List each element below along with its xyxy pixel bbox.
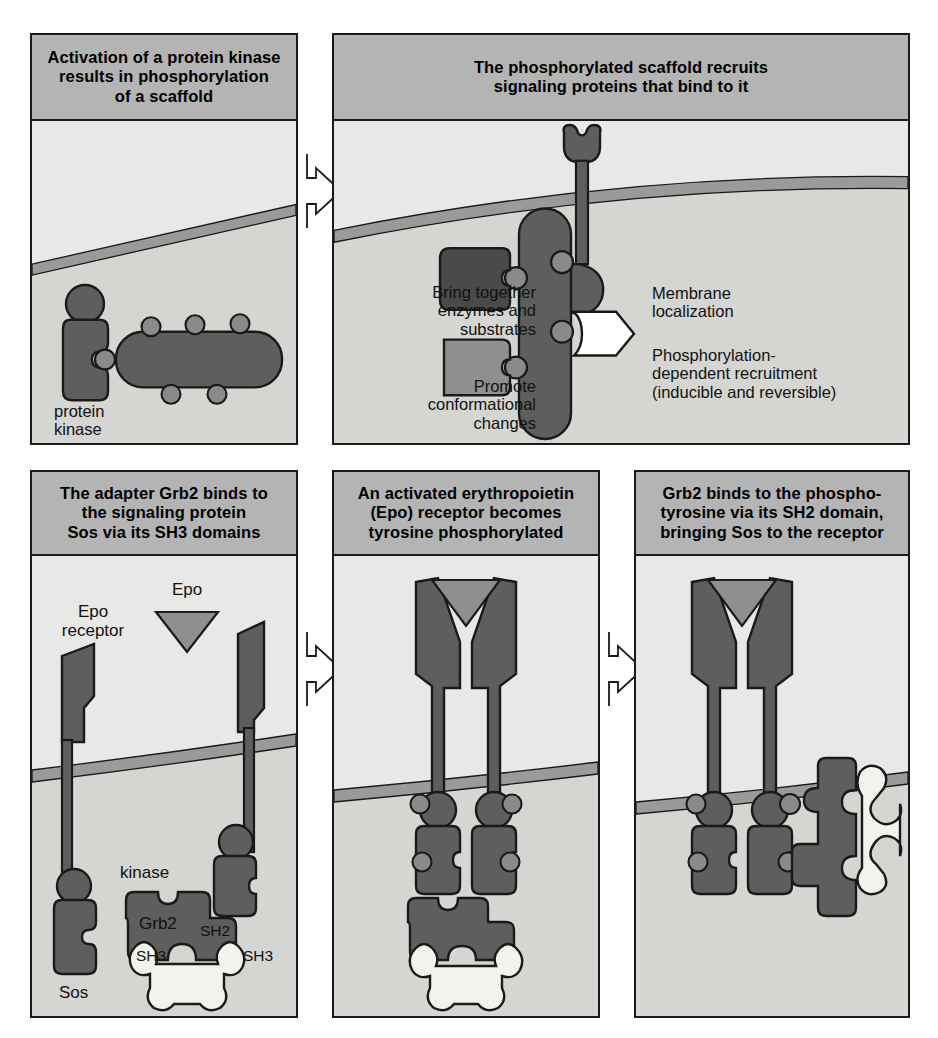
- panel-1-molecules: [32, 121, 296, 443]
- panel-1-title-text: Activation of a protein kinase results i…: [47, 48, 280, 106]
- epo-ligand-triangle: [156, 612, 218, 652]
- sh3-left-label: SH3: [136, 947, 166, 964]
- kinase-label: kinase: [120, 863, 169, 882]
- phosphotyrosine: [501, 853, 520, 872]
- panel-2-body: Bring together enzymes and substrates Pr…: [334, 121, 908, 443]
- panel-3-title-text: The adapter Grb2 binds to the signaling …: [60, 484, 268, 542]
- panel-phosphorylated-scaffold-recruits: The phosphorylated scaffold recruits sig…: [332, 33, 910, 445]
- phosphotyrosine: [413, 853, 432, 872]
- panel-1-body: protein kinase: [32, 121, 296, 443]
- phosphotyrosine: [687, 795, 706, 814]
- epo-label: Epo: [140, 580, 234, 599]
- kinase-domain-right: [472, 792, 522, 894]
- epo-receptor-label: Epo receptor: [38, 602, 148, 640]
- phosphotyrosine: [503, 795, 522, 814]
- bring-together-label: Bring together enzymes and substrates: [346, 283, 536, 338]
- panel-4-molecules: [334, 556, 598, 1016]
- kinase-domain-left: [687, 792, 737, 894]
- panel-grb2-binds-phosphotyrosine: Grb2 binds to the phospho- tyrosine via …: [634, 470, 910, 1018]
- sos-label: Sos: [59, 983, 88, 1002]
- sh2-label: SH2: [200, 922, 230, 939]
- phosphate-2: [186, 315, 205, 334]
- panel-5-body: [636, 556, 908, 1016]
- panel-4-title: An activated erythropoietin (Epo) recept…: [334, 472, 598, 556]
- promote-conformational-label: Promote conformational changes: [346, 377, 536, 432]
- dimerized-epo-receptor: [692, 578, 792, 798]
- sh3-right-label: SH3: [243, 947, 273, 964]
- grb2-label: Grb2: [139, 914, 177, 933]
- recruited-protein-shape: [574, 312, 634, 356]
- panel-3-body: Epo Epo receptor kinase Grb2 SH2 SH3 SH3…: [32, 556, 296, 1016]
- scaffold-phosphate-top: [551, 251, 573, 273]
- panel-2-title-text: The phosphorylated scaffold recruits sig…: [474, 58, 768, 97]
- docking-phosphotyrosine: [780, 794, 800, 814]
- dimerized-epo-receptor: [416, 578, 516, 798]
- panel-5-molecules: [636, 556, 908, 1016]
- panel-activated-epo-receptor: An activated erythropoietin (Epo) recept…: [332, 470, 600, 1018]
- panel-4-title-text: An activated erythropoietin (Epo) recept…: [358, 484, 574, 542]
- phosphotyrosine: [689, 853, 708, 872]
- epo-receptor-left: [54, 644, 96, 974]
- protein-kinase-shape: [63, 285, 115, 400]
- membrane-localization-label: Membrane localization: [652, 284, 734, 321]
- phosphate-5: [208, 385, 227, 404]
- panel-1-title: Activation of a protein kinase results i…: [32, 35, 296, 121]
- sos-shape: [410, 944, 523, 1010]
- grb2-shape: [792, 758, 856, 916]
- panel-3-title: The adapter Grb2 binds to the signaling …: [32, 472, 296, 556]
- phosphate-1: [142, 317, 161, 336]
- kinase-domain-left: [411, 792, 461, 894]
- scaffold-shape: [116, 314, 282, 403]
- panel-activation-of-protein-kinase: Activation of a protein kinase results i…: [30, 33, 298, 445]
- phosphorylation-dependent-label: Phosphorylation- dependent recruitment (…: [652, 346, 836, 401]
- sos-shape: [857, 766, 901, 895]
- phosphate-3: [231, 314, 250, 333]
- phosphate-4: [162, 385, 181, 404]
- panel-4-body: [334, 556, 598, 1016]
- panel-5-title-text: Grb2 binds to the phospho- tyrosine via …: [660, 484, 884, 542]
- panel-2-title: The phosphorylated scaffold recruits sig…: [334, 35, 908, 121]
- protein-kinase-label: protein kinase: [54, 402, 104, 439]
- scaffold-phosphate-hexagon: [551, 321, 573, 343]
- panel-grb2-binds-sos: The adapter Grb2 binds to the signaling …: [30, 470, 298, 1018]
- epo-receptor-right: [214, 622, 264, 916]
- panel-5-title: Grb2 binds to the phospho- tyrosine via …: [636, 472, 908, 556]
- phosphotyrosine: [411, 795, 430, 814]
- signaling-diagram-figure: Activation of a protein kinase results i…: [0, 0, 938, 1038]
